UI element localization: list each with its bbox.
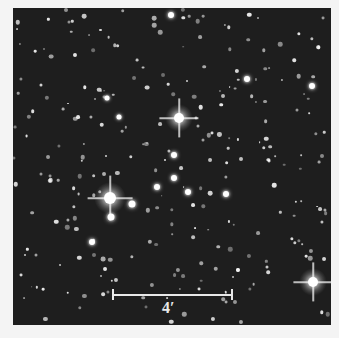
faint-star	[300, 154, 302, 156]
faint-star	[302, 243, 304, 245]
faint-star	[59, 264, 61, 266]
faint-star	[88, 34, 90, 36]
faint-star	[182, 46, 184, 48]
faint-star	[83, 143, 85, 145]
faint-star	[70, 31, 72, 33]
faint-star	[148, 239, 152, 243]
faint-star	[42, 288, 45, 291]
faint-star	[293, 214, 296, 217]
faint-star	[78, 306, 81, 309]
faint-star	[92, 253, 96, 257]
faint-star	[256, 231, 260, 235]
faint-star	[318, 207, 322, 211]
faint-star	[316, 45, 320, 49]
faint-star	[265, 260, 267, 262]
faint-star	[318, 161, 321, 164]
faint-star	[299, 168, 301, 170]
bright-star	[89, 239, 95, 245]
bright-star	[105, 96, 110, 101]
faint-star	[279, 211, 281, 213]
faint-star	[72, 186, 76, 190]
faint-star	[130, 255, 133, 258]
faint-star	[264, 119, 268, 123]
faint-star	[114, 278, 118, 282]
faint-star	[248, 287, 251, 290]
faint-star	[199, 186, 203, 190]
faint-star	[64, 8, 68, 12]
faint-star	[16, 20, 20, 24]
faint-star	[154, 243, 158, 247]
faint-star	[142, 66, 145, 69]
faint-star	[173, 273, 177, 277]
faint-star	[104, 90, 106, 92]
bright-star	[117, 115, 122, 120]
faint-star	[239, 157, 243, 161]
faint-star	[211, 131, 214, 134]
faint-star	[107, 36, 110, 39]
faint-star	[102, 292, 106, 296]
faint-star	[262, 146, 265, 149]
faint-star	[121, 9, 125, 13]
faint-star	[82, 294, 86, 298]
faint-star	[298, 32, 301, 35]
faint-star	[105, 155, 107, 157]
faint-star	[73, 216, 77, 220]
faint-star	[164, 159, 166, 161]
faint-star	[267, 271, 271, 275]
faint-star	[227, 25, 230, 28]
faint-star	[170, 223, 173, 226]
faint-star	[200, 279, 203, 282]
faint-star	[181, 274, 185, 278]
faint-star	[208, 191, 213, 196]
faint-star	[161, 195, 163, 197]
bright-star	[309, 83, 315, 89]
faint-star	[176, 268, 180, 272]
faint-star	[44, 96, 48, 100]
faint-star	[192, 235, 196, 239]
faint-star	[255, 78, 257, 80]
faint-star	[116, 44, 120, 48]
faint-star	[23, 298, 25, 300]
faint-star	[297, 239, 300, 242]
faint-star	[39, 84, 42, 87]
faint-star	[81, 159, 83, 161]
faint-star	[314, 132, 317, 135]
faint-star	[110, 280, 112, 282]
faint-star	[295, 201, 297, 203]
faint-star	[325, 312, 330, 317]
faint-star	[20, 274, 23, 277]
faint-star	[92, 174, 96, 178]
faint-star	[13, 157, 15, 160]
faint-star	[89, 116, 92, 119]
faint-star	[108, 257, 113, 262]
faint-star	[115, 170, 119, 174]
faint-star	[264, 67, 267, 70]
faint-star	[181, 8, 185, 12]
faint-star	[16, 28, 18, 30]
faint-star	[307, 97, 310, 100]
faint-star	[296, 74, 301, 79]
faint-star	[182, 312, 186, 316]
faint-star	[66, 218, 69, 221]
faint-star	[76, 115, 80, 119]
faint-star	[83, 85, 86, 88]
faint-star	[195, 19, 200, 24]
faint-star	[322, 17, 325, 20]
faint-star	[67, 103, 69, 105]
faint-star	[192, 203, 196, 207]
faint-star	[233, 300, 237, 304]
faint-star	[198, 35, 202, 39]
faint-star	[272, 183, 277, 188]
faint-star	[125, 126, 127, 128]
faint-star	[188, 15, 191, 18]
faint-star	[31, 286, 33, 288]
faint-star	[227, 147, 230, 150]
faint-star	[214, 267, 219, 272]
faint-star	[278, 42, 283, 47]
faint-star	[145, 306, 148, 309]
faint-star	[320, 220, 323, 223]
faint-star	[146, 208, 150, 212]
faint-star	[49, 175, 52, 178]
faint-star	[171, 93, 175, 97]
faint-star	[57, 179, 60, 182]
